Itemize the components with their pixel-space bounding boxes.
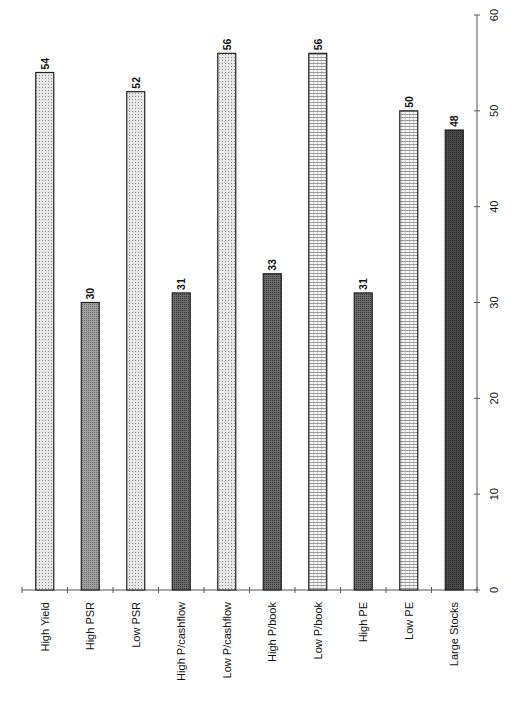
category-label: Low P/book xyxy=(312,602,324,660)
bar-high-p-book xyxy=(263,274,281,590)
bar-value-label: 31 xyxy=(357,278,369,290)
category-label: Low PSR xyxy=(130,602,142,648)
bar-low-p-cashflow xyxy=(218,53,236,590)
bar-value-label: 50 xyxy=(403,96,415,108)
category-label: High P/book xyxy=(266,602,278,662)
value-tick-label: 60 xyxy=(488,9,500,21)
bar-high-pe xyxy=(354,293,372,590)
bar-value-label: 52 xyxy=(130,77,142,89)
value-tick-label: 30 xyxy=(488,296,500,308)
bar-low-pe xyxy=(400,111,418,590)
category-label: High Yield xyxy=(39,602,51,652)
bar-low-psr xyxy=(127,92,145,590)
bar-value-label: 31 xyxy=(175,278,187,290)
bar-value-label: 54 xyxy=(39,58,51,70)
category-label: High PE xyxy=(357,602,369,642)
bar-high-psr xyxy=(81,303,99,591)
bar-value-label: 48 xyxy=(448,115,460,127)
bar-large-stocks xyxy=(445,130,463,590)
category-label: High PSR xyxy=(84,602,96,650)
value-tick-label: 10 xyxy=(488,488,500,500)
bar-high-p-cashflow xyxy=(172,293,190,590)
category-label: Large Stocks xyxy=(448,602,460,667)
value-tick-label: 50 xyxy=(488,105,500,117)
bars-group xyxy=(36,53,464,590)
bar-high-yield xyxy=(36,73,54,591)
category-label: Low PE xyxy=(403,602,415,640)
bar-chart: 010203040506054High Yield30High PSR52Low… xyxy=(0,0,513,702)
value-tick-label: 0 xyxy=(488,587,500,593)
bar-value-label: 33 xyxy=(266,259,278,271)
bar-value-label: 56 xyxy=(312,38,324,50)
category-label: Low P/cashflow xyxy=(221,602,233,678)
bar-value-label: 56 xyxy=(221,38,233,50)
category-label: High P/cashflow xyxy=(175,602,187,681)
bar-value-label: 30 xyxy=(84,288,96,300)
bar-low-p-book xyxy=(309,53,327,590)
value-tick-label: 20 xyxy=(488,392,500,404)
value-tick-label: 40 xyxy=(488,201,500,213)
